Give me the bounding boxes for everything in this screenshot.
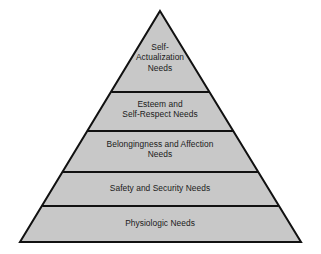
pyramid-shape	[0, 0, 321, 254]
pyramid-diagram: Self- Actualization Needs Esteem and Sel…	[0, 0, 321, 254]
pyramid-outline-fill	[20, 11, 301, 242]
